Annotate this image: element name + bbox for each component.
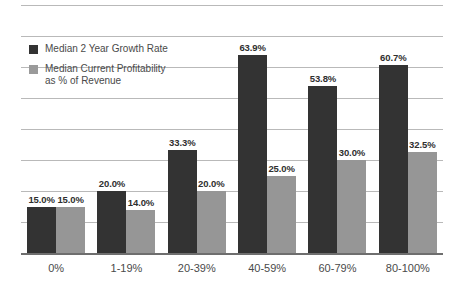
bar-slot: 25.0%	[267, 5, 296, 253]
category-label: 1-19%	[97, 262, 155, 274]
bar-value-label: 15.0%	[28, 194, 54, 205]
bar-slot: 30.0%	[337, 5, 366, 253]
legend-item[interactable]: Median 2 Year Growth Rate	[29, 43, 209, 56]
category-label: 40-59%	[238, 262, 296, 274]
bar[interactable]	[126, 210, 155, 253]
bar-value-label: 20.0%	[198, 178, 224, 189]
bar-slot: 32.5%	[408, 5, 437, 253]
bar-slot: 63.9%	[238, 5, 267, 253]
bar[interactable]	[97, 191, 126, 253]
bar[interactable]	[238, 55, 267, 253]
category-label: 80-100%	[379, 262, 437, 274]
legend-item[interactable]: Median Current Profitability as % of Rev…	[29, 63, 209, 88]
category-axis: 0%1-19%20-39%40-59%60-79%80-100%	[21, 262, 443, 284]
bar-value-label: 25.0%	[268, 163, 294, 174]
bar-group: 63.9%25.0%	[238, 5, 296, 253]
bar[interactable]	[308, 86, 337, 253]
bar-value-label: 53.8%	[310, 73, 336, 84]
legend-swatch-icon	[29, 45, 38, 54]
chart-legend: Median 2 Year Growth RateMedian Current …	[29, 43, 209, 95]
bar[interactable]	[267, 176, 296, 254]
bar[interactable]	[197, 191, 226, 253]
bar-value-label: 63.9%	[239, 42, 265, 53]
bar[interactable]	[379, 65, 408, 253]
bar-group: 53.8%30.0%	[308, 5, 366, 253]
category-label: 20-39%	[168, 262, 226, 274]
bar-slot: 60.7%	[379, 5, 408, 253]
bar[interactable]	[337, 160, 366, 253]
bar-chart: 15.0%15.0%20.0%14.0%33.3%20.0%63.9%25.0%…	[0, 0, 453, 291]
bar-group: 60.7%32.5%	[379, 5, 437, 253]
category-label: 0%	[27, 262, 85, 274]
bar-value-label: 15.0%	[57, 194, 83, 205]
bar-value-label: 30.0%	[339, 147, 365, 158]
legend-label: Median 2 Year Growth Rate	[45, 43, 168, 56]
legend-label: Median Current Profitability as % of Rev…	[45, 63, 166, 88]
bar-value-label: 33.3%	[169, 137, 195, 148]
category-label: 60-79%	[308, 262, 366, 274]
bar-value-label: 60.7%	[380, 52, 406, 63]
bar-slot: 53.8%	[308, 5, 337, 253]
bar[interactable]	[168, 150, 197, 253]
bar-value-label: 32.5%	[409, 139, 435, 150]
x-axis-line	[21, 253, 443, 255]
bar[interactable]	[56, 207, 85, 254]
bar[interactable]	[408, 152, 437, 253]
bar-value-label: 20.0%	[99, 178, 125, 189]
bar[interactable]	[27, 207, 56, 254]
legend-swatch-icon	[29, 65, 38, 74]
bar-value-label: 14.0%	[128, 197, 154, 208]
